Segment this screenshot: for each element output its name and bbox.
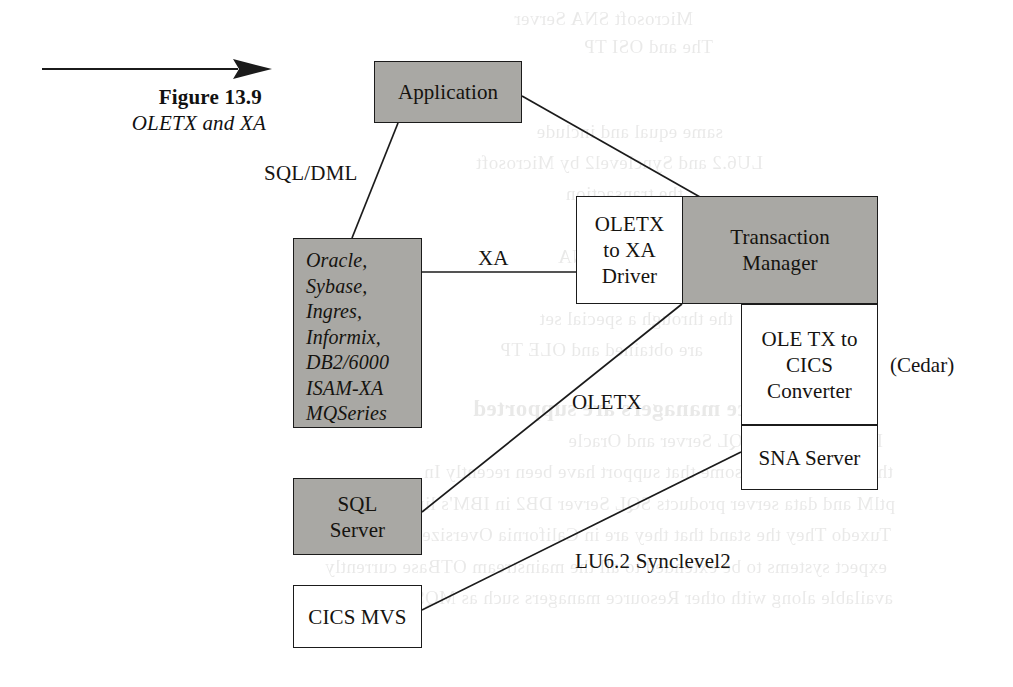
database-item: DB2/6000: [306, 350, 389, 376]
edge-label-sql-dml: SQL/DML: [264, 161, 358, 185]
node-ole-tx-to-cics-converter-line3: Converter: [767, 378, 852, 404]
node-ole-tx-to-cics-converter-line1: OLE TX to: [761, 326, 857, 352]
node-transaction-manager-line2: Manager: [742, 250, 817, 276]
database-item: Sybase,: [306, 274, 367, 300]
node-ole-tx-to-cics-converter[interactable]: OLE TX to CICS Converter: [741, 304, 878, 425]
node-databases[interactable]: Oracle, Sybase, Ingres, Informix, DB2/60…: [293, 238, 422, 428]
database-item: Ingres,: [306, 299, 362, 325]
figure-title: OLETX and XA: [40, 110, 276, 136]
database-item: Oracle,: [306, 248, 367, 274]
node-transaction-manager-line1: Transaction: [730, 224, 830, 250]
edge-label-lu62-synclevel2: LU6.2 Synclevel2: [575, 549, 731, 573]
node-sna-server[interactable]: SNA Server: [741, 425, 878, 490]
figure-number: Figure 13.9: [40, 85, 276, 110]
node-oletx-to-xa-driver-line2: to XA: [603, 237, 655, 263]
figure-caption: Figure 13.9 OLETX and XA: [40, 58, 276, 136]
annotation-cedar: (Cedar): [890, 353, 954, 378]
node-application-label: Application: [398, 79, 498, 105]
node-sql-server-label-line2: Server: [330, 517, 385, 543]
node-oletx-to-xa-driver-line1: OLETX: [595, 211, 664, 237]
node-ole-tx-to-cics-converter-line2: CICS: [786, 352, 833, 378]
node-oletx-to-xa-driver[interactable]: OLETX to XA Driver: [576, 196, 683, 304]
node-sna-server-label: SNA Server: [759, 445, 861, 471]
node-transaction-manager[interactable]: Transaction Manager: [682, 196, 878, 304]
node-application[interactable]: Application: [374, 61, 522, 123]
database-item: Informix,: [306, 325, 381, 351]
node-sql-server[interactable]: SQL Server: [293, 478, 422, 555]
node-cics-mvs-label: CICS MVS: [308, 604, 406, 630]
node-cics-mvs[interactable]: CICS MVS: [293, 585, 422, 648]
edge-label-xa: XA: [478, 246, 509, 270]
right-arrow-icon: [40, 58, 276, 80]
edge-label-oletx: OLETX: [572, 390, 642, 414]
node-sql-server-label-line1: SQL: [338, 491, 378, 517]
database-item: ISAM-XA: [306, 376, 383, 402]
database-item: MQSeries: [306, 401, 387, 427]
node-oletx-to-xa-driver-line3: Driver: [602, 263, 657, 289]
